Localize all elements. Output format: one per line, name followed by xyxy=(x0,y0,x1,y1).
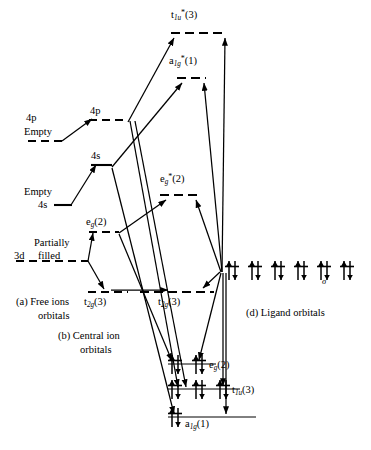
link-ligand-egbond xyxy=(199,273,221,360)
connector-4s xyxy=(71,165,96,205)
label-t1u-star: t1u*(3) xyxy=(171,8,197,22)
caption-b-central-ion: (b) Central ion xyxy=(58,330,120,342)
label-free-3d: 3d xyxy=(14,250,25,262)
label-free-3d-filled: filled xyxy=(38,250,60,262)
link-4s-a1gstar xyxy=(112,83,182,167)
label-mo-a1g-bonding: a1g(1) xyxy=(185,418,209,431)
link-4p-t1ubond xyxy=(130,121,178,387)
label-free-4p-empty: Empty xyxy=(24,126,52,138)
caption-b-central-ion-line2: orbitals xyxy=(80,344,112,356)
link-4p-t1ustar xyxy=(128,38,174,122)
link-ligand-t1ustar xyxy=(222,38,225,272)
ligand-pair-6 xyxy=(340,261,354,280)
link-4p-t1ubond-b xyxy=(135,121,186,387)
link-ligand-a1gstar xyxy=(204,83,222,272)
label-central-eg: eg(2) xyxy=(86,216,107,229)
label-free-3d-partially: Partially xyxy=(34,237,70,249)
label-a1g-star: a1g*(1) xyxy=(169,54,197,68)
caption-a-free-ions-line2: orbitals xyxy=(38,310,70,322)
label-mo-t1u-bonding: t1u(3) xyxy=(232,384,254,397)
label-mo-t2g: t2g(3) xyxy=(158,296,180,309)
label-central-t2g: t2g(3) xyxy=(84,296,106,309)
ligand-pair-3 xyxy=(271,261,285,280)
label-central-4s: 4s xyxy=(91,150,100,162)
link-ligand-egstar xyxy=(196,200,221,272)
caption-a-free-ions: (a) Free ions xyxy=(16,296,69,308)
connector-3d-eg xyxy=(88,233,93,261)
mo-diagram: t1u*(3) a1g*(1) eg*(2) 4p Empty Empty 4s… xyxy=(0,0,371,450)
label-central-4p: 4p xyxy=(90,105,101,117)
label-free-4p: 4p xyxy=(26,112,37,124)
connector-3d-t2g xyxy=(88,261,104,289)
connector-4p xyxy=(62,119,92,141)
label-mo-eg-bonding: eg(2) xyxy=(209,359,230,372)
link-eg-egstar xyxy=(119,200,166,233)
label-ligand-sigma: σ xyxy=(322,277,326,287)
ligand-to-mo-connectors xyxy=(196,38,226,414)
label-free-4s: 4s xyxy=(38,199,47,211)
label-eg-star: eg*(2) xyxy=(160,172,185,186)
central-to-mo-connectors xyxy=(111,38,186,414)
ligand-pair-2 xyxy=(248,261,262,280)
ligand-orbital-electrons xyxy=(225,261,354,280)
caption-d-ligand-orbitals: (d) Ligand orbitals xyxy=(246,307,325,319)
ligand-pair-4 xyxy=(294,261,308,280)
ligand-pair-1 xyxy=(225,261,239,280)
label-free-4s-empty: Empty xyxy=(24,186,52,198)
